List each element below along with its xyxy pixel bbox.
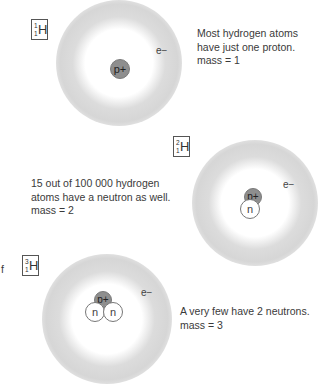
- neutron-tritium-2: n: [103, 302, 123, 322]
- element-symbol: H: [38, 23, 47, 36]
- element-symbol: H: [29, 259, 38, 272]
- electron-label-deuterium: e−: [283, 179, 294, 190]
- cropped-text-fragment: f: [1, 263, 4, 275]
- isotope-label-tritium: 3 1 H: [22, 255, 39, 276]
- isotope-label-deuterium: 2 1 H: [173, 136, 190, 157]
- electron-label-tritium: e−: [141, 287, 152, 298]
- neutron-deuterium: n: [240, 199, 260, 219]
- element-symbol: H: [180, 140, 189, 153]
- electron-label-protium: e−: [156, 45, 167, 56]
- description-deuterium: 15 out of 100 000 hydrogen atoms have a …: [31, 177, 171, 218]
- description-tritium: A very few have 2 neutrons. mass = 3: [180, 305, 310, 332]
- isotope-label-protium: 1 1 H: [31, 19, 48, 40]
- proton-protium: p+: [110, 59, 130, 79]
- neutron-tritium-1: n: [85, 302, 105, 322]
- description-protium: Most hydrogen atoms have just one proton…: [197, 27, 298, 68]
